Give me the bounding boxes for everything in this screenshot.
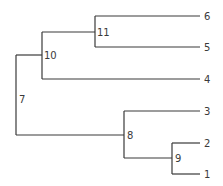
dendrogram: 7101189654321 [0, 0, 223, 186]
internal-node-label: 9 [175, 153, 181, 164]
leaf-label: 2 [204, 138, 210, 149]
leaf-label: 5 [204, 42, 210, 53]
internal-node-label: 10 [44, 50, 57, 61]
internal-node-label: 11 [97, 27, 110, 38]
node-labels: 7101189654321 [19, 11, 210, 180]
leaf-label: 3 [204, 106, 210, 117]
tree-edges [16, 16, 200, 174]
internal-node-label: 7 [19, 94, 25, 105]
leaf-label: 6 [204, 11, 210, 22]
leaf-label: 4 [204, 74, 210, 85]
internal-node-label: 8 [127, 130, 133, 141]
leaf-label: 1 [204, 169, 210, 180]
